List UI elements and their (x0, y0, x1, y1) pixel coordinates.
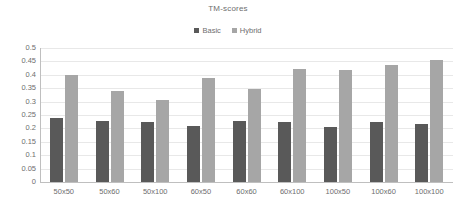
y-axis-tick-label: 0.05 (0, 165, 36, 173)
bar-basic[interactable] (233, 121, 246, 182)
y-axis-tick-label: 0.3 (0, 98, 36, 106)
x-axis-tick-label: 50x60 (87, 187, 133, 196)
bar-basic[interactable] (50, 118, 63, 182)
bar-group (87, 48, 133, 182)
bar-group (406, 48, 452, 182)
chart-container: TM-scores BasicHybrid 00.050.10.150.20.2… (0, 0, 456, 217)
y-axis-tick-label: 0.2 (0, 124, 36, 132)
bar-group (178, 48, 224, 182)
x-axis: 50x5050x6050x10060x5060x6060x100100x5010… (41, 187, 452, 196)
y-axis-tick-label: 0.5 (0, 44, 36, 52)
bar-basic[interactable] (370, 122, 383, 182)
x-axis-tick-label: 60x60 (224, 187, 270, 196)
bar-hybrid[interactable] (339, 70, 352, 182)
bar-hybrid[interactable] (202, 78, 215, 182)
x-axis-tick-label: 60x50 (178, 187, 224, 196)
bar-basic[interactable] (187, 126, 200, 182)
legend-label: Hybrid (240, 26, 262, 35)
x-axis-tick-label: 60x100 (269, 187, 315, 196)
y-axis-tick-label: 0.1 (0, 151, 36, 159)
bar-group (315, 48, 361, 182)
x-axis-tick-label: 50x50 (41, 187, 87, 196)
x-axis-tick-label: 100x100 (406, 187, 452, 196)
bar-basic[interactable] (278, 122, 291, 182)
y-axis-tick-label: 0.4 (0, 71, 36, 79)
bar-group (41, 48, 87, 182)
bar-hybrid[interactable] (430, 60, 443, 182)
bars-layer (41, 48, 452, 182)
chart-legend: BasicHybrid (0, 26, 456, 35)
x-axis-tick-label: 100x50 (315, 187, 361, 196)
bar-group (269, 48, 315, 182)
bar-group (132, 48, 178, 182)
legend-label: Basic (202, 26, 220, 35)
legend-swatch-icon (232, 28, 237, 33)
bar-basic[interactable] (324, 127, 337, 182)
legend-swatch-icon (194, 28, 199, 33)
chart-title: TM-scores (0, 4, 456, 13)
y-axis-tick-label: 0 (0, 178, 36, 186)
bar-basic[interactable] (96, 121, 109, 182)
y-axis-tick-label: 0.25 (0, 111, 36, 119)
legend-item-basic[interactable]: Basic (194, 26, 220, 35)
bar-group (361, 48, 407, 182)
bar-hybrid[interactable] (156, 100, 169, 182)
legend-item-hybrid[interactable]: Hybrid (232, 26, 262, 35)
bar-hybrid[interactable] (385, 65, 398, 182)
bar-basic[interactable] (141, 122, 154, 182)
bar-hybrid[interactable] (111, 91, 124, 182)
y-axis-tick-label: 0.15 (0, 138, 36, 146)
x-axis-tick-label: 100x60 (361, 187, 407, 196)
bar-hybrid[interactable] (248, 89, 261, 182)
bar-hybrid[interactable] (293, 69, 306, 182)
x-axis-tick-label: 50x100 (132, 187, 178, 196)
y-axis-tick-label: 0.35 (0, 84, 36, 92)
bar-hybrid[interactable] (65, 75, 78, 182)
y-axis-tick-label: 0.45 (0, 57, 36, 65)
y-axis: 00.050.10.150.20.250.30.350.40.450.5 (0, 48, 36, 182)
bar-group (224, 48, 270, 182)
bar-basic[interactable] (415, 124, 428, 182)
